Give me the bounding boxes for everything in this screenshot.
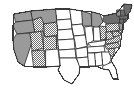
state-NM[interactable] [46,49,60,67]
state-OR[interactable] [13,20,35,34]
state-NV[interactable] [30,31,44,51]
state-SD[interactable] [57,19,72,30]
state-NJ[interactable] [119,23,123,30]
state-CT[interactable] [120,19,124,23]
state-ND[interactable] [56,9,71,20]
state-AR[interactable] [76,47,88,58]
us-map-svg [0,0,134,91]
state-AZ[interactable] [32,50,46,67]
state-KS[interactable] [58,39,75,50]
state-WY[interactable] [44,22,58,37]
state-OK[interactable] [59,49,76,58]
us-choropleth-map-figure [0,0,134,91]
state-NE[interactable] [58,29,74,40]
state-MN[interactable] [70,9,83,25]
